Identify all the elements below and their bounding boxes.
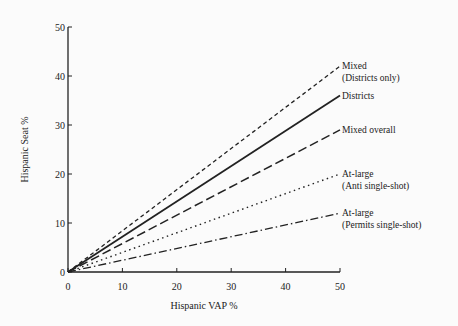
series-line-0	[68, 66, 340, 272]
series-line-1	[68, 96, 340, 272]
line-chart: 0102030405001020304050Hispanic VAP %Hisp…	[0, 0, 458, 326]
series-line-4	[68, 213, 340, 272]
series-label: Districts	[342, 91, 374, 101]
x-tick-label: 0	[66, 281, 71, 292]
series-line-3	[68, 174, 340, 272]
y-axis-label: Hispanic Seat %	[19, 116, 30, 182]
series-label: At-large(Anti single-shot)	[342, 169, 409, 192]
y-tick-label: 10	[55, 218, 65, 229]
x-axis-label: Hispanic VAP %	[170, 300, 237, 311]
x-tick-label: 50	[335, 281, 345, 292]
series-label: Mixed overall	[342, 125, 396, 135]
series-label: Mixed(Districts only)	[342, 61, 400, 84]
series-label: At-large(Permits single-shot)	[342, 208, 421, 231]
x-tick-label: 40	[281, 281, 291, 292]
y-tick-label: 0	[60, 267, 65, 278]
y-tick-label: 40	[55, 71, 65, 82]
axes: 0102030405001020304050Hispanic VAP %Hisp…	[19, 22, 345, 312]
x-tick-label: 10	[117, 281, 127, 292]
y-tick-label: 30	[55, 120, 65, 131]
series-labels: Mixed(Districts only)DistrictsMixed over…	[342, 61, 421, 231]
y-tick-label: 20	[55, 169, 65, 180]
x-tick-label: 30	[226, 281, 236, 292]
x-tick-label: 20	[172, 281, 182, 292]
y-tick-label: 50	[55, 22, 65, 33]
series-lines	[68, 66, 340, 272]
series-line-2	[68, 130, 340, 272]
